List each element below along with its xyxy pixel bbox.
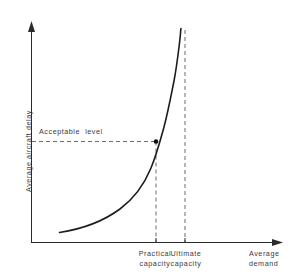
x-axis-title-line2: demand — [249, 259, 278, 268]
chart-canvas — [0, 0, 299, 279]
x-axis-arrow-icon — [272, 239, 283, 246]
ultimate-capacity-label: Ultimatecapacity — [160, 249, 212, 268]
operating-point-marker — [154, 139, 159, 144]
x-axis — [32, 239, 284, 246]
x-axis-title-line1: Average — [249, 249, 280, 258]
acceptable-level-label: Acceptable level — [39, 127, 103, 137]
ultimate-capacity-label-line1: Ultimate — [171, 249, 202, 258]
delay-capacity-chart: Acceptable level Average aircraft delay … — [0, 0, 299, 279]
x-axis-title: Averagedemand — [249, 249, 299, 268]
y-axis-title: Average aircraft delay — [24, 110, 34, 192]
ultimate-capacity-label-line2: capacity — [171, 259, 202, 268]
y-axis-arrow-icon — [28, 21, 35, 32]
